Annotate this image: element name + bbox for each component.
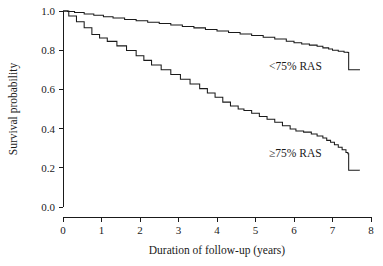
- chart-canvas: 0.00.20.40.60.81.0 012345678 <75% RAS ≥7…: [0, 0, 383, 266]
- x-axis-tick-labels: 012345678: [60, 224, 374, 236]
- x-tick-label-4: 4: [214, 224, 220, 236]
- y-tick-label-0.8: 0.8: [41, 44, 55, 56]
- series-label-low-ras: <75% RAS: [269, 60, 322, 72]
- y-tick-label-0.4: 0.4: [41, 123, 55, 135]
- x-axis-ticks: [63, 217, 371, 222]
- x-tick-label-8: 8: [368, 224, 374, 236]
- series-label-high-ras: ≥75% RAS: [269, 147, 322, 159]
- y-tick-label-1.0: 1.0: [41, 5, 55, 17]
- x-tick-label-3: 3: [176, 224, 182, 236]
- x-tick-label-1: 1: [99, 224, 105, 236]
- x-tick-label-2: 2: [137, 224, 143, 236]
- y-tick-label-0.0: 0.0: [41, 201, 55, 213]
- y-tick-label-0.2: 0.2: [41, 162, 55, 174]
- x-tick-label-5: 5: [253, 224, 259, 236]
- x-tick-label-6: 6: [291, 224, 297, 236]
- y-axis-ticks: [59, 11, 63, 207]
- x-tick-label-0: 0: [60, 224, 66, 236]
- x-axis-title: Duration of follow-up (years): [149, 244, 286, 257]
- y-tick-label-0.6: 0.6: [41, 83, 55, 95]
- x-tick-label-7: 7: [330, 224, 336, 236]
- y-axis-tick-labels: 0.00.20.40.60.81.0: [41, 5, 55, 213]
- survival-chart-figure: 0.00.20.40.60.81.0 012345678 <75% RAS ≥7…: [0, 0, 383, 266]
- y-axis-title: Survival probability: [7, 63, 20, 156]
